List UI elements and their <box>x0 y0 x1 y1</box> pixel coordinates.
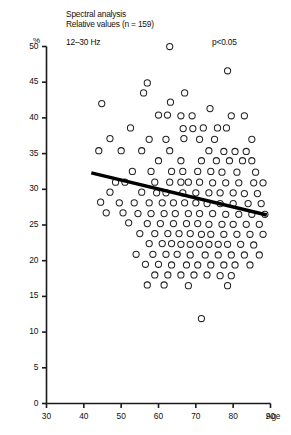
data-point <box>178 179 184 185</box>
data-point <box>223 180 229 186</box>
data-point <box>210 210 216 216</box>
data-point <box>185 210 191 216</box>
data-point <box>196 179 202 185</box>
data-point <box>241 113 247 119</box>
data-point <box>146 136 152 142</box>
data-point <box>214 125 220 131</box>
data-point <box>241 190 247 196</box>
data-point <box>103 210 109 216</box>
data-point <box>144 80 150 86</box>
data-points <box>96 43 268 321</box>
data-point <box>182 200 188 206</box>
data-point <box>170 220 176 226</box>
data-point <box>140 90 146 96</box>
data-point <box>180 168 186 174</box>
data-point <box>193 190 199 196</box>
data-point <box>226 158 232 164</box>
data-point <box>139 148 145 154</box>
data-point <box>221 231 227 237</box>
data-point <box>129 168 135 174</box>
data-point <box>172 210 178 216</box>
data-point <box>168 240 174 246</box>
data-point <box>241 252 247 258</box>
data-point <box>256 252 262 258</box>
data-point <box>196 210 202 216</box>
data-point <box>195 168 201 174</box>
data-point <box>163 136 169 142</box>
data-point <box>146 200 152 206</box>
data-point <box>200 125 206 131</box>
data-point <box>180 126 186 132</box>
data-point <box>207 106 213 112</box>
data-point <box>249 136 255 142</box>
data-point <box>116 200 122 206</box>
data-point <box>144 282 150 288</box>
data-point <box>181 136 187 142</box>
data-point <box>167 179 173 185</box>
data-point <box>159 240 165 246</box>
data-point <box>190 126 196 132</box>
data-point <box>187 230 193 236</box>
data-point <box>185 179 191 185</box>
data-point <box>170 200 176 206</box>
data-point <box>174 251 180 257</box>
data-point <box>206 148 212 154</box>
data-point <box>96 148 102 154</box>
data-point <box>219 169 225 175</box>
data-point <box>204 272 210 278</box>
data-point <box>187 252 193 258</box>
data-point <box>223 211 229 217</box>
data-point <box>228 273 234 279</box>
data-point <box>195 262 201 268</box>
data-point <box>146 240 152 246</box>
data-point <box>224 241 230 247</box>
data-point <box>217 273 223 279</box>
data-point <box>206 221 212 227</box>
data-point <box>198 315 204 321</box>
data-point <box>150 251 156 257</box>
data-point <box>208 168 214 174</box>
data-point <box>167 43 173 49</box>
data-point <box>120 210 126 216</box>
data-point <box>161 210 167 216</box>
axes <box>42 47 271 409</box>
data-point <box>230 190 236 196</box>
data-point <box>228 113 234 119</box>
data-point <box>135 210 141 216</box>
data-point <box>189 113 195 119</box>
plot-canvas <box>0 0 291 435</box>
data-point <box>183 262 189 268</box>
data-point <box>144 220 150 226</box>
data-point <box>98 199 104 205</box>
data-point <box>163 251 169 257</box>
data-point <box>236 211 242 217</box>
data-point <box>206 241 212 247</box>
data-point <box>208 231 214 237</box>
data-point <box>196 136 202 142</box>
data-point <box>260 231 266 237</box>
data-point <box>208 262 214 268</box>
data-point <box>252 169 258 175</box>
data-point <box>198 231 204 237</box>
data-point <box>167 99 173 105</box>
data-point <box>142 261 148 267</box>
data-point <box>164 112 170 118</box>
data-point <box>243 148 249 154</box>
data-point <box>221 148 227 154</box>
data-point <box>107 136 113 142</box>
data-point <box>247 231 253 237</box>
data-point <box>245 200 251 206</box>
data-point <box>232 148 238 154</box>
data-point <box>178 158 184 164</box>
data-point <box>239 158 245 164</box>
data-point <box>161 282 167 288</box>
data-point <box>215 241 221 247</box>
data-point <box>148 210 154 216</box>
data-point <box>223 125 229 131</box>
data-point <box>210 180 216 186</box>
data-point <box>224 68 230 74</box>
data-point <box>152 230 158 236</box>
data-point <box>182 90 188 96</box>
data-point <box>176 230 182 236</box>
data-point <box>155 112 161 118</box>
